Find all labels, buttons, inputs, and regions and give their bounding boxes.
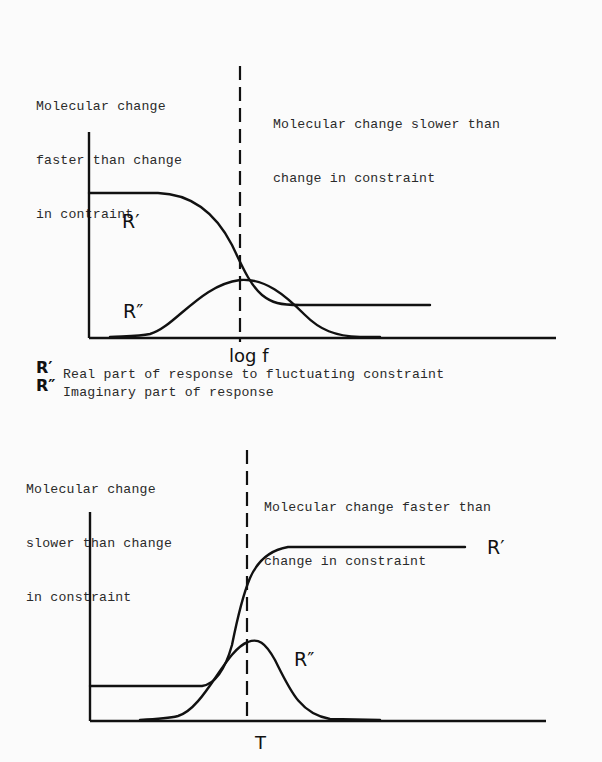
bottom-imaginary-curve-label: R″: [294, 648, 314, 670]
bottom-real-curve-label: R′: [487, 536, 505, 558]
bottom-imaginary-curve: [140, 641, 380, 720]
bottom-x-axis-label: T: [255, 732, 266, 753]
